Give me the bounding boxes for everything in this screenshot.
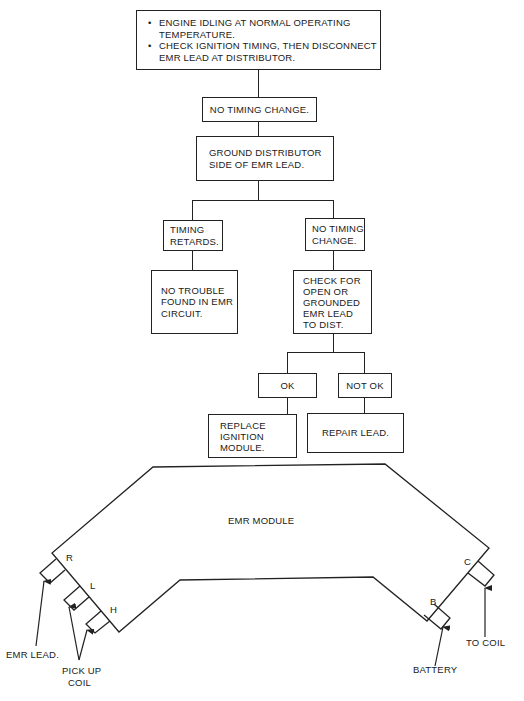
terminal-r [40,559,65,583]
to-coil-callout: TO COIL [466,637,505,649]
terminal-c [468,561,494,586]
emr-lead-callout: EMR LEAD. [6,649,59,661]
terminal-l [64,586,89,610]
pickup-coil-arrow-h [79,630,87,660]
terminal-label-b: B [430,596,437,608]
battery-arrow [435,627,443,666]
terminal-label-c: C [464,556,471,568]
pickup-coil-callout-line2: COIL [68,677,91,689]
terminal-label-l: L [90,580,95,592]
terminal-b [424,604,450,629]
emr-module-outline [0,0,524,701]
terminal-h [86,611,110,633]
pickup-coil-callout-line1: PICK UP [62,665,101,677]
emr-module-title: EMR MODULE [228,515,294,527]
module-body [52,464,489,632]
terminal-label-r: R [66,552,73,564]
battery-callout: BATTERY [413,664,457,676]
terminal-label-h: H [110,604,117,616]
pickup-coil-arrow-l [69,607,79,660]
emr-lead-arrow [36,581,44,646]
